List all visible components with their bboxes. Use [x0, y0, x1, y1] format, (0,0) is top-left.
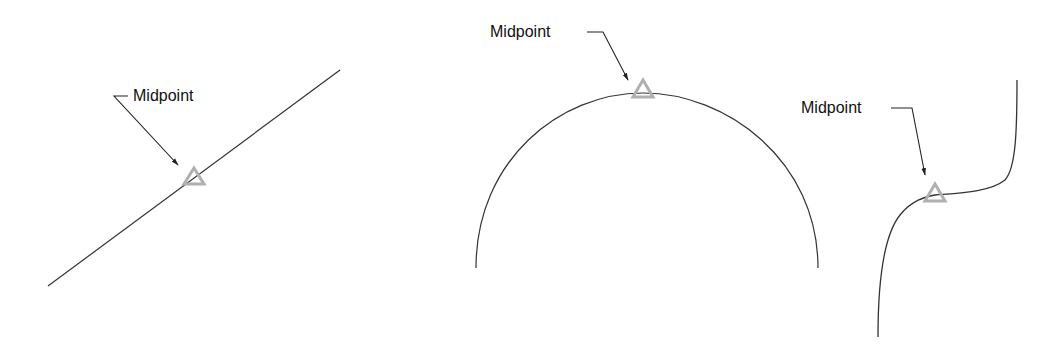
panel-line: [48, 70, 340, 286]
midpoint-marker-icon: [184, 168, 204, 184]
midpoint-label-line: Midpoint: [133, 87, 193, 105]
midpoint-marker-icon: [925, 184, 945, 201]
panel-spline: [878, 80, 1017, 337]
midpoint-marker-icon: [633, 80, 653, 97]
leader-line: [587, 32, 628, 80]
diagram-canvas: [0, 0, 1046, 359]
leader-line: [114, 96, 178, 165]
midpoint-label-spline: Midpoint: [801, 99, 861, 117]
panel-arc: [476, 32, 818, 268]
arc-object: [476, 93, 818, 268]
leader-line: [891, 108, 925, 175]
spline-object: [878, 80, 1017, 337]
midpoint-label-arc: Midpoint: [490, 23, 550, 41]
line-object: [48, 70, 340, 286]
